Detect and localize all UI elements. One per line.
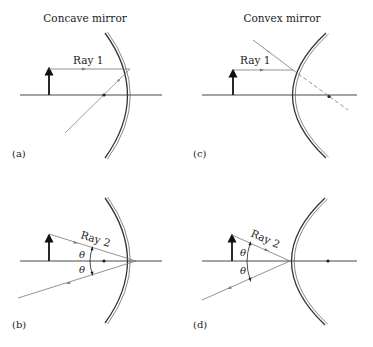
direction-arrow-icon: [260, 69, 264, 72]
panel-label: (c): [193, 148, 207, 159]
direction-arrow-icon: [227, 286, 232, 289]
title-concave: Concave mirror: [43, 12, 127, 24]
ray-label: Ray 1: [73, 54, 103, 66]
focal-point: [102, 259, 105, 262]
concave-mirror: [105, 198, 128, 323]
panel-c: Ray 1 (c): [193, 33, 357, 159]
panel-b: θ θ Ray 2 (b): [12, 197, 162, 330]
ray-label: Ray 2: [79, 228, 112, 248]
mirror-ray-diagram: Concave mirror Convex mirror Ray 1 (a) R…: [0, 0, 373, 347]
angle-arc: [247, 244, 250, 279]
panel-a: Ray 1 (a): [12, 32, 162, 159]
ray-label: Ray 1: [240, 54, 270, 66]
concave-mirror: [105, 33, 128, 158]
ray-label: Ray 2: [249, 227, 282, 250]
focal-point: [102, 93, 105, 96]
direction-arrow-icon: [74, 241, 78, 244]
convex-mirror: [292, 198, 326, 325]
panel-d: θ θ Ray 2 (d): [193, 198, 357, 330]
theta-upper: θ: [240, 247, 246, 258]
panel-label: (b): [12, 319, 26, 330]
ray2-reflected: [18, 261, 136, 298]
title-convex: Convex mirror: [243, 12, 321, 24]
direction-arrow-icon: [265, 248, 270, 251]
direction-arrow-icon: [82, 68, 86, 71]
focal-point: [327, 95, 330, 98]
theta-upper: θ: [79, 249, 85, 260]
ray1-reflected: [65, 69, 130, 133]
panel-label: (a): [12, 148, 26, 159]
virtual-extension: [293, 70, 348, 110]
theta-lower: θ: [79, 264, 85, 275]
focal-point: [326, 259, 329, 262]
theta-lower: θ: [240, 265, 246, 276]
convex-mirror: [293, 33, 327, 158]
panel-label: (d): [193, 319, 207, 330]
